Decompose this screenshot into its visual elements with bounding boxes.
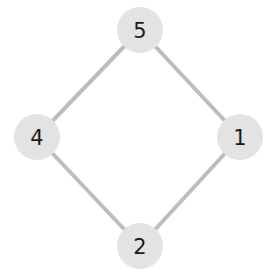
graph-node-2[interactable]: 2 — [117, 223, 163, 269]
graph-node-circle-1[interactable] — [217, 114, 263, 160]
graph-node-circle-2[interactable] — [117, 223, 163, 269]
node-layer: 5412 — [14, 7, 263, 269]
edge-layer — [37, 30, 240, 246]
graph-node-4[interactable]: 4 — [14, 114, 60, 160]
graph-canvas: 5412 — [0, 0, 266, 276]
graph-node-circle-5[interactable] — [117, 7, 163, 53]
graph-svg: 5412 — [0, 0, 266, 276]
graph-node-5[interactable]: 5 — [117, 7, 163, 53]
graph-node-circle-4[interactable] — [14, 114, 60, 160]
graph-node-1[interactable]: 1 — [217, 114, 263, 160]
